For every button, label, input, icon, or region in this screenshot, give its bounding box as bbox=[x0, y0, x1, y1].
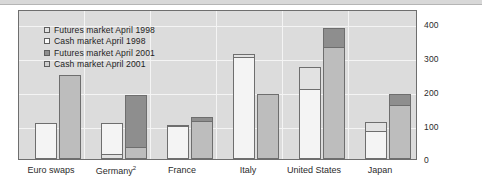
legend-item-futures-2001: Futures market April 2001 bbox=[44, 47, 155, 59]
bar-united-states-1998[interactable] bbox=[299, 67, 321, 159]
legend-item-futures-1998: Futures market April 1998 bbox=[44, 24, 155, 36]
top-rule-decoration bbox=[0, 0, 482, 5]
x-label-germany: Germany2 bbox=[96, 165, 136, 176]
x-label-text: Italy bbox=[240, 165, 257, 175]
y-axis-labels: 400 300 200 100 0 bbox=[424, 10, 480, 160]
bar-france-2001[interactable] bbox=[191, 117, 213, 159]
legend-label-futures-2001: Futures market April 2001 bbox=[54, 48, 155, 58]
x-label-text: Euro swaps bbox=[27, 165, 74, 175]
legend-label-futures-1998: Futures market April 1998 bbox=[54, 25, 155, 35]
legend-swatch-futures-1998 bbox=[44, 27, 50, 33]
segment-futures-2001 bbox=[323, 28, 345, 49]
segment-futures-2001 bbox=[191, 117, 213, 122]
bar-group-italy bbox=[216, 11, 282, 159]
y-tick-0: 0 bbox=[424, 155, 429, 165]
legend-swatch-futures-2001 bbox=[44, 50, 50, 56]
x-axis-labels: Euro swaps Germany2 France Italy United … bbox=[18, 165, 417, 183]
bar-group-japan bbox=[348, 11, 414, 159]
y-tick-200: 200 bbox=[424, 88, 439, 98]
x-label-euro-swaps: Euro swaps bbox=[27, 165, 74, 175]
bar-euro-swaps-1998[interactable] bbox=[35, 123, 57, 159]
x-label-united-states: United States bbox=[287, 165, 341, 175]
y-tick-100: 100 bbox=[424, 122, 439, 132]
legend-label-cash-1998: Cash market April 1998 bbox=[54, 36, 146, 46]
segment-futures-2001 bbox=[389, 94, 411, 106]
legend-label-cash-2001: Cash market April 2001 bbox=[54, 59, 146, 69]
segment-futures-1998 bbox=[299, 67, 321, 90]
legend-item-cash-1998: Cash market April 1998 bbox=[44, 36, 155, 48]
x-label-text: France bbox=[168, 165, 196, 175]
x-label-text: Germany bbox=[96, 166, 133, 176]
x-label-france: France bbox=[168, 165, 196, 175]
segment-futures-1998 bbox=[167, 125, 189, 128]
x-label-text: Japan bbox=[368, 165, 393, 175]
bar-italy-2001[interactable] bbox=[257, 94, 279, 159]
y-tick-400: 400 bbox=[424, 20, 439, 30]
x-label-footnote: 2 bbox=[133, 165, 136, 171]
segment-futures-1998 bbox=[101, 154, 123, 159]
bar-italy-1998[interactable] bbox=[233, 54, 255, 159]
bar-group-france bbox=[150, 11, 216, 159]
bar-group-united-states bbox=[282, 11, 348, 159]
bar-united-states-2001[interactable] bbox=[323, 28, 345, 159]
chart-legend: Futures market April 1998 Cash market Ap… bbox=[44, 23, 155, 70]
bar-germany-1998[interactable] bbox=[101, 123, 123, 159]
chart-figure: Futures market April 1998 Cash market Ap… bbox=[0, 0, 482, 188]
bar-euro-swaps-2001[interactable] bbox=[59, 75, 81, 159]
plot-area: Futures market April 1998 Cash market Ap… bbox=[18, 10, 417, 160]
x-label-japan: Japan bbox=[368, 165, 393, 175]
legend-swatch-cash-2001 bbox=[44, 61, 50, 67]
segment-futures-1998 bbox=[365, 122, 387, 132]
segment-futures-1998 bbox=[233, 54, 255, 58]
bar-france-1998[interactable] bbox=[167, 125, 189, 159]
y-tick-300: 300 bbox=[424, 54, 439, 64]
bar-japan-1998[interactable] bbox=[365, 122, 387, 159]
x-label-italy: Italy bbox=[240, 165, 257, 175]
segment-futures-2001 bbox=[125, 95, 147, 148]
x-label-text: United States bbox=[287, 165, 341, 175]
bar-germany-2001[interactable] bbox=[125, 95, 147, 159]
bar-japan-2001[interactable] bbox=[389, 94, 411, 159]
legend-swatch-cash-1998 bbox=[44, 38, 50, 44]
legend-item-cash-2001: Cash market April 2001 bbox=[44, 59, 155, 71]
